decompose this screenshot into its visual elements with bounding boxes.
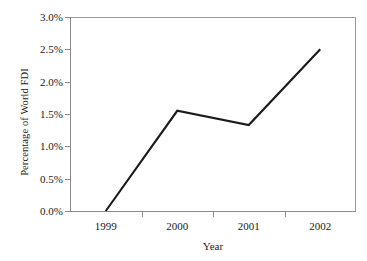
y-tick-label: 1.5% xyxy=(40,108,63,120)
x-tick-label: 2000 xyxy=(166,219,188,233)
y-tick-label: 0.5% xyxy=(40,173,63,185)
y-tick-label: 1.0% xyxy=(40,140,63,152)
x-tick-label: 2002 xyxy=(309,219,331,233)
plot-area: 0.0%0.5%1.0%1.5%2.0%2.5%3.0% 19992000200… xyxy=(70,17,356,211)
line-chart-figure: Percentage of World FDI 0.0%0.5%1.0%1.5%… xyxy=(0,0,367,261)
y-tick-label: 2.0% xyxy=(40,76,63,88)
y-tick-label: 2.5% xyxy=(40,43,63,55)
data-series-line xyxy=(70,17,356,212)
x-tick-label: 2001 xyxy=(238,219,260,233)
x-axis-title: Year xyxy=(70,239,356,253)
x-tick-label: 1999 xyxy=(95,219,117,233)
y-axis-title: Percentage of World FDI xyxy=(17,26,33,218)
series-polyline xyxy=(106,49,321,211)
y-tick-label: 3.0% xyxy=(40,11,63,23)
y-tick-label: 0.0% xyxy=(40,205,63,217)
